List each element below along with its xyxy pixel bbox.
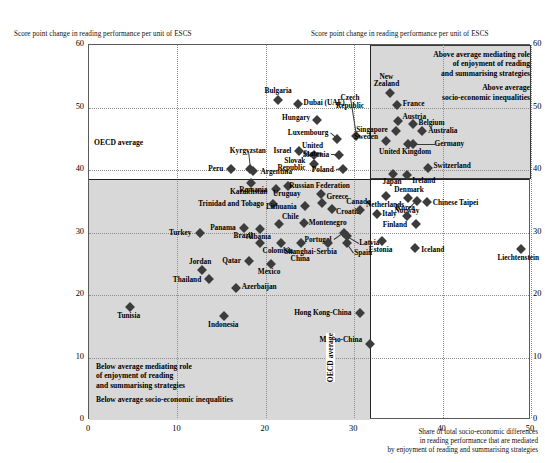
y-tick-label: 20 [66,289,84,298]
data-point-marker [248,166,258,176]
data-point-label: Ireland [412,177,435,185]
data-point-label: United Kingdom [379,148,431,156]
y-tick-label: 40 [66,164,84,173]
y-tick-label: 20 [533,289,545,298]
annotation-ll-line1: Below average mediating role [96,362,286,371]
oecd-average-vertical-label: OECD average [326,333,335,382]
data-point-marker [226,164,236,174]
y-tick-label: 10 [66,352,84,361]
data-point-label: Korea [396,204,415,212]
x-tick-label: 20 [252,424,278,433]
data-point-marker [403,193,413,203]
data-point-label: Mexico [258,268,281,276]
annotation-lower-left: Below average mediating role of enjoymen… [96,362,286,405]
data-point-label: Denmark [394,186,424,194]
data-point-label: Switzerland [434,162,471,170]
gridline-horizontal [89,295,529,296]
gridline-horizontal [89,108,529,109]
data-point-label: United States [302,142,323,157]
y-axis-title-left: Score point change in reading performanc… [14,30,192,38]
label-leader-line [413,144,435,145]
y-tick-label: 0 [533,414,545,423]
label-leader-line [331,154,339,155]
data-point-marker [372,209,382,219]
data-point-label: Australia [428,127,457,135]
data-point-label: Qatar [222,257,241,265]
data-point-label: Iceland [421,246,444,254]
data-point-label: Brazil [234,232,253,240]
y-tick-label: 0 [66,414,84,423]
data-point-label: Greece [326,193,348,201]
y-axis-title-right: Score point change in reading performanc… [311,30,489,38]
data-point-label: Estonia [369,246,393,254]
x-axis-title-line2: in reading performance that are mediated [300,437,538,446]
y-tick-label: 10 [533,352,545,361]
data-point-label: Chinese Taipei [433,199,479,207]
chart-canvas: Score point change in reading performanc… [0,0,545,463]
annotation-ll-line4: Below average socio-economic inequalitie… [96,395,286,404]
data-point-label: Panama [210,224,236,232]
data-point-label: Romania [239,186,267,194]
data-point-label: Montenegro [309,219,347,227]
gridline-horizontal [89,358,529,359]
data-point-marker [410,243,420,253]
annotation-ur-line4: Above average [378,83,530,92]
data-point-label: Jordan [189,258,211,266]
oecd-average-horizontal-label: OECD average [92,138,145,147]
data-point-marker [312,115,322,125]
oecd-average-vertical-line [370,45,371,418]
data-point-marker [422,197,432,207]
data-point-label: Thailand [173,276,201,284]
data-point-label: Bulgaria [265,87,292,95]
x-axis-title-line1: Share of total socio-economic difference… [300,428,538,437]
data-point-label: Peru [208,165,223,173]
data-point-label: Serbia [317,248,337,256]
x-axis-title-line3: by enjoyment of reading and summarising … [300,446,538,455]
annotation-ur-line5: socio-economic inequalities [378,93,530,102]
annotation-ur-line2: of enjoyment of reading [378,59,530,68]
data-point-label: Hong Kong-China [294,309,351,317]
data-point-label: Tunisia [117,312,140,320]
data-point-label: Israel [274,147,292,155]
annotation-upper-right: Above average mediating role of enjoymen… [378,50,530,102]
data-point-label: Argentina [260,168,292,176]
data-point-marker [411,219,421,229]
data-point-label: Russian Federation [289,182,350,190]
gridline-vertical [531,45,532,418]
gridline-horizontal [89,233,529,234]
y-tick-label: 50 [66,102,84,111]
data-point-label: Germany [435,140,465,148]
data-point-label: Canada [346,198,370,206]
data-point-label: Poland [312,166,334,174]
y-tick-label: 50 [533,102,545,111]
data-point-marker [334,150,344,160]
data-point-label: Trinidad and Tobago [198,200,264,208]
annotation-ur-line3: and summarising strategies [378,69,530,78]
data-point-label: Indonesia [208,321,238,329]
data-point-label: Lithuania [266,203,297,211]
data-point-label: Azerbaijan [242,283,277,291]
data-point-label: Shanghai- China [284,248,316,263]
x-tick-label: 10 [163,424,189,433]
x-axis-title: Share of total socio-economic difference… [300,428,538,456]
y-tick-label: 60 [66,39,84,48]
data-point-label: Uruguay [273,190,301,198]
x-tick-label: 0 [75,424,101,433]
data-point-label: Chile [282,213,299,221]
y-tick-label: 30 [533,227,545,236]
data-point-label: Liechtenstein [497,254,539,262]
data-point-label: Finland [383,221,407,229]
annotation-ur-line1: Above average mediating role [378,50,530,59]
annotation-ll-line3: and summarising strategies [96,381,286,390]
y-tick-label: 30 [66,227,84,236]
y-tick-label: 40 [533,164,545,173]
data-point-marker [273,95,283,105]
gridline-horizontal [89,170,529,171]
data-point-label: Luxembourg [288,129,329,137]
data-point-label: Turkey [169,229,191,237]
oecd-average-horizontal-line [89,179,529,180]
annotation-ll-line2: of enjoyment of reading [96,371,286,380]
data-point-label: Sweden [354,133,378,141]
y-tick-label: 60 [533,39,545,48]
data-point-label: Hungary [282,114,310,122]
